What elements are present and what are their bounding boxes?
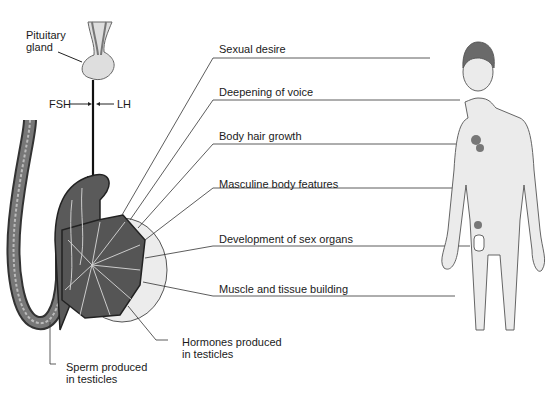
sperm-produced-label: Sperm produced in testicles [66,361,147,385]
sperm-label-line1: Sperm produced [66,361,147,373]
fsh-label: FSH [49,98,71,110]
hormones-produced-label: Hormones produced in testicles [182,336,282,360]
effect-label-body-hair-growth: Body hair growth [219,130,302,142]
human-figure-illustration [442,42,545,330]
pituitary-leader-line [58,52,82,62]
pituitary-label-line2: gland [26,41,66,53]
hormones-label-line1: Hormones produced [182,336,282,348]
lh-label: LH [117,98,131,110]
pituitary-gland-illustration [82,22,114,80]
pituitary-label: Pituitary gland [26,29,66,53]
effect-label-development-of-sex-organs: Development of sex organs [219,233,353,245]
effect-label-deepening-of-voice: Deepening of voice [219,86,313,98]
sperm-label-line2: in testicles [66,373,147,385]
pituitary-label-line1: Pituitary [26,29,66,41]
vas-deferens-illustration [14,120,62,323]
effect-label-muscle-and-tissue-building: Muscle and tissue building [219,283,348,295]
testis-illustration [55,175,167,330]
effect-label-sexual-desire: Sexual desire [219,43,286,55]
hormones-label-line2: in testicles [182,348,282,360]
effect-label-masculine-body-features: Masculine body features [219,178,338,190]
